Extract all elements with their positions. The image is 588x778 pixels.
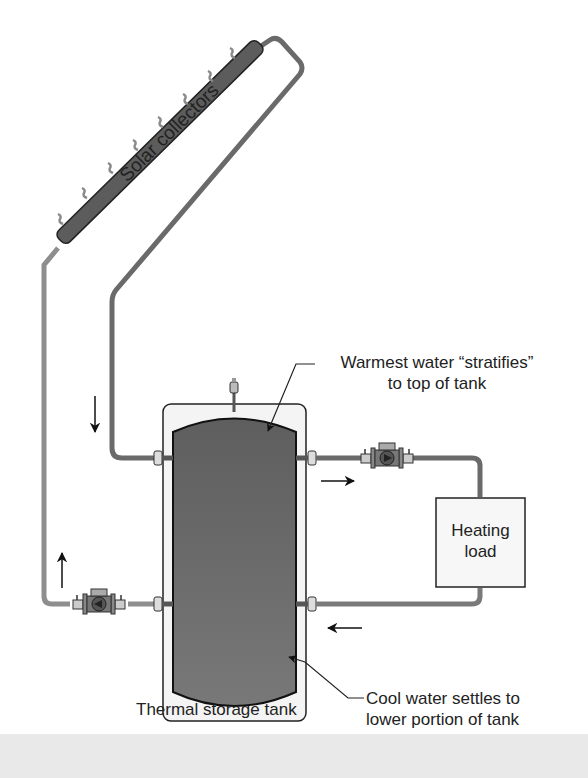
cool-line-1: Cool water settles to xyxy=(366,688,520,709)
load-return-pipe xyxy=(316,588,480,604)
cool-water-label: Cool water settles to lower portion of t… xyxy=(366,688,520,730)
warmest-line-2: to top of tank xyxy=(317,373,557,394)
collector-circulator-pump-icon xyxy=(73,589,125,614)
warmest-water-label: Warmest water “stratifies” to top of tan… xyxy=(317,352,557,394)
bottom-band xyxy=(0,734,588,778)
heating-load-label: Heating load xyxy=(436,520,525,562)
sun-rays-icon xyxy=(58,48,235,224)
thermal-storage-tank-label: Thermal storage tank xyxy=(136,699,297,720)
warmest-line-1: Warmest water “stratifies” xyxy=(317,352,557,373)
load-circulator-pump-icon xyxy=(361,443,413,468)
diagram-canvas: Solar collectors Warmest water “stratifi… xyxy=(0,0,588,778)
thermal-storage-tank xyxy=(173,419,296,707)
heating-line-2: load xyxy=(436,541,525,562)
heating-line-1: Heating xyxy=(436,520,525,541)
collector-supply-pipe xyxy=(44,248,70,604)
cool-line-2: lower portion of tank xyxy=(366,709,520,730)
